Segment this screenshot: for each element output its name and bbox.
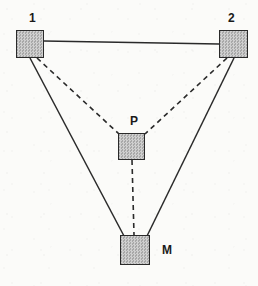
node-label-m: M [162,244,172,256]
diagram-canvas: 1 2 P M [0,0,258,286]
node-1[interactable] [16,30,44,58]
node-m[interactable] [120,235,150,265]
edge-n1-nM [30,58,124,236]
node-label-p: P [130,115,138,127]
node-label-1: 1 [29,12,36,24]
edge-n2-nM [147,58,234,236]
node-2[interactable] [219,30,248,58]
edge-nP-nM [132,160,134,235]
edge-n1-n2 [44,41,219,44]
node-p[interactable] [118,133,145,160]
node-label-2: 2 [228,12,235,24]
